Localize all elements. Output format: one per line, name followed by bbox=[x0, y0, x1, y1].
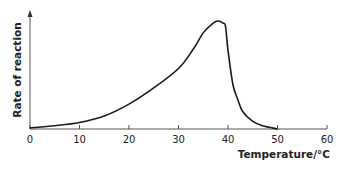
x-tick-label: 30 bbox=[172, 134, 185, 145]
x-ticks bbox=[30, 125, 327, 129]
x-tick-label: 0 bbox=[27, 134, 33, 145]
chart: 0102030405060 Temperature/°C Rate of rea… bbox=[0, 0, 348, 169]
x-tick-label: 60 bbox=[321, 134, 334, 145]
x-tick-label: 10 bbox=[73, 134, 86, 145]
rate-curve bbox=[30, 21, 278, 129]
x-axis-title: Temperature/°C bbox=[238, 148, 331, 160]
x-tick-labels: 0102030405060 bbox=[27, 134, 334, 145]
x-tick-label: 50 bbox=[271, 134, 284, 145]
x-tick-label: 40 bbox=[222, 134, 235, 145]
x-tick-label: 20 bbox=[123, 134, 136, 145]
y-axis-title: Rate of reaction bbox=[11, 22, 23, 117]
y-axis-arrow-icon bbox=[28, 10, 33, 17]
